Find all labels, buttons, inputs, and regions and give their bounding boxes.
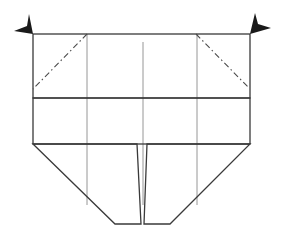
right-corner-arrow-icon bbox=[250, 13, 271, 34]
upper-flap bbox=[33, 34, 250, 98]
right-corner-mountain-fold bbox=[196, 34, 248, 87]
left-corner-mountain-fold bbox=[33, 34, 87, 89]
fold-diagram bbox=[0, 0, 283, 245]
left-corner-arrow-icon bbox=[14, 14, 33, 34]
vertical-crease-lines bbox=[87, 34, 197, 205]
middle-band bbox=[33, 98, 250, 144]
